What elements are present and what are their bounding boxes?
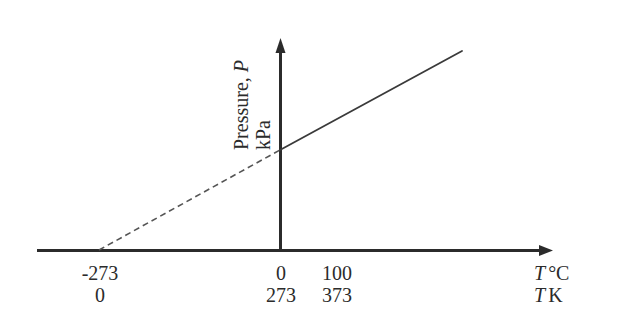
x-axis-kelvin-k: K — [548, 284, 562, 306]
x-axis-symbol-T-celsius: T — [534, 262, 545, 284]
x-axis-degree-celsius: °C — [548, 262, 569, 284]
x-axis-unit-kelvin: TK — [534, 285, 563, 305]
pressure-temperature-chart: Pressure, P kPa -273 0 100 0 273 373 T°C… — [0, 0, 628, 336]
measured-solid-line — [280, 51, 462, 150]
x-axis-arrowhead — [539, 245, 553, 256]
y-axis-arrowhead — [276, 38, 286, 53]
x-axis-symbol-T-kelvin: T — [534, 284, 545, 306]
x-axis-unit-celsius: T°C — [534, 263, 569, 283]
extrapolated-dashed-line — [99, 150, 280, 250]
